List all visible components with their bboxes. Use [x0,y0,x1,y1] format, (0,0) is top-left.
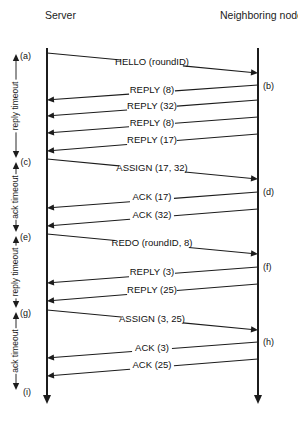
timeout-arrow-top-t2 [13,162,19,169]
message-arrowhead-m4 [47,129,54,135]
message-m9: REDO (roundID, 8) [47,234,258,256]
message-line-start-m13 [172,342,258,349]
message-line-start-m12 [47,310,121,317]
message-arrowhead-m7 [47,204,54,210]
message-arrowhead-m8 [47,222,54,228]
message-arrowhead-m1 [251,69,258,75]
message-arrowhead-m2 [47,96,54,102]
step-marker-i: (i) [23,387,31,397]
message-m4: REPLY (8) [47,117,258,136]
timeout-arrow-bottom-t1 [13,151,19,158]
message-line-start-m7 [174,192,258,198]
message-m8: ACK (32) [47,209,258,229]
timeout-bracket-t1: reply timeout [10,54,20,158]
lifeline-headers: ServerNeighboring nodes [45,9,298,21]
message-label-m10: REPLY (3) [130,266,175,277]
timeout-bracket-t2: ack timeout [10,162,20,232]
timeout-arrow-top-t1 [13,54,19,61]
sequence-diagram-canvas: ServerNeighboring nodes reply timeoutack… [0,0,298,424]
message-line-end-m7 [53,202,130,208]
message-label-m8: ACK (32) [132,209,171,220]
message-label-m2: REPLY (8) [130,84,175,95]
message-label-m1: HELLO (roundID) [115,56,189,67]
message-label-m3: REPLY (32) [127,100,177,111]
message-label-m6: ASSIGN (17, 32) [116,162,187,173]
message-line-start-m9 [47,234,115,240]
message-line-start-m1 [47,53,121,60]
message-label-m4: REPLY (8) [130,117,175,128]
message-m10: REPLY (3) [47,266,258,285]
step-marker-g: (g) [20,308,31,318]
message-label-m7: ACK (17) [132,191,171,202]
lifeline-end-arrow-server [43,395,51,404]
message-arrowhead-m6 [251,175,258,181]
message-line-start-m4 [175,117,258,123]
message-line-start-m6 [47,159,119,166]
message-line-end-m13 [53,352,132,358]
timeout-arrow-top-t4 [13,312,19,319]
message-arrowhead-m3 [47,112,54,118]
timeout-bracket-t4: ack timeout [10,312,20,390]
timeout-label-t3: reply timeout [10,247,20,296]
messages: HELLO (roundID)REPLY (8)REPLY (32)REPLY … [47,53,258,379]
timeout-label-t4: ack timeout [10,329,20,373]
message-line-start-m11 [177,284,258,291]
message-line-end-m5 [53,145,127,151]
timeout-arrow-bottom-t4 [13,383,19,390]
step-marker-b: (b) [263,81,274,91]
lifeline-end-arrow-neighbors [254,395,262,404]
message-line-start-m5 [177,134,258,141]
message-label-m12: ASSIGN (3, 25) [119,313,185,324]
message-m7: ACK (17) [47,191,258,210]
message-m1: HELLO (roundID) [47,53,258,75]
message-line-start-m8 [174,209,258,216]
timeout-label-t1: reply timeout [10,81,20,130]
message-label-m13: ACK (3) [135,342,169,353]
message-line-start-m3 [177,100,258,106]
message-line-end-m11 [53,295,127,301]
message-line-end-m12 [183,323,252,330]
timeout-arrow-top-t3 [13,236,19,243]
message-label-m9: REDO (roundID, 8) [112,237,193,248]
message-m11: REPLY (25) [47,284,258,304]
message-m3: REPLY (32) [47,100,258,119]
message-line-end-m4 [53,127,129,133]
message-label-m14: ACK (25) [132,359,171,370]
timeout-brackets: reply timeoutack timeoutreply timeoutack… [10,54,20,390]
message-line-end-m3 [53,110,127,116]
message-m13: ACK (3) [47,342,258,361]
message-line-end-m10 [53,277,129,283]
timeout-label-t2: ack timeout [10,175,20,219]
message-line-end-m6 [185,172,252,178]
step-marker-a: (a) [20,51,31,61]
message-arrowhead-m12 [251,326,258,332]
timeout-bracket-t3: reply timeout [10,236,20,308]
message-line-end-m14 [53,369,130,375]
lifeline-label-neighbors: Neighboring nodes [220,9,298,21]
message-line-start-m10 [175,267,258,273]
timeout-arrow-bottom-t2 [13,225,19,232]
message-line-end-m1 [183,66,252,73]
message-line-end-m9 [189,247,252,253]
message-arrowhead-m9 [251,250,258,256]
message-arrowhead-m14 [47,372,54,378]
message-m12: ASSIGN (3, 25) [47,310,258,332]
message-line-start-m2 [175,85,258,91]
message-line-end-m2 [53,94,129,99]
message-arrowhead-m11 [47,297,54,303]
lifeline-label-server: Server [45,9,76,21]
step-marker-e: (e) [20,232,31,242]
timeout-arrow-bottom-t3 [13,301,19,308]
message-label-m11: REPLY (25) [127,284,177,295]
step-marker-c: (c) [21,157,32,167]
sequence-diagram: ServerNeighboring nodes reply timeoutack… [0,0,298,424]
message-line-start-m14 [174,359,258,366]
message-m6: ASSIGN (17, 32) [47,159,258,181]
step-marker-f: (f) [263,262,272,272]
message-m5: REPLY (17) [47,134,258,154]
message-m14: ACK (25) [47,359,258,379]
message-line-end-m8 [53,219,130,225]
message-label-m5: REPLY (17) [127,134,177,145]
message-arrowhead-m5 [47,147,54,153]
step-marker-d: (d) [263,187,274,197]
